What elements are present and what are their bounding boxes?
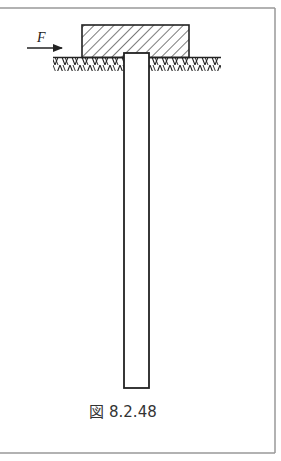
pile-column: [124, 53, 149, 388]
pile-diagram: F 図 8.2.48: [0, 0, 281, 461]
soil-hatch-left: [53, 58, 124, 71]
force-label: F: [36, 30, 46, 45]
soil-hatch-right: [149, 58, 221, 71]
pile-column-rect: [124, 53, 149, 388]
force-arrow: F: [27, 30, 62, 48]
figure-caption: 図 8.2.48: [89, 403, 156, 421]
